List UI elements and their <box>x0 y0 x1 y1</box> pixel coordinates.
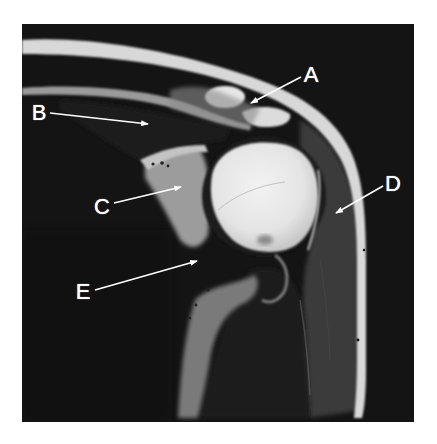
arrow-c <box>114 187 181 203</box>
label-c: C <box>94 196 110 218</box>
arrow-b <box>50 113 148 124</box>
label-a: A <box>304 64 319 86</box>
mri-shoulder-figure: ABCDE <box>22 24 414 422</box>
label-e: E <box>76 281 91 303</box>
arrow-a <box>251 77 301 103</box>
arrow-e <box>95 261 197 290</box>
label-d: D <box>385 173 401 195</box>
label-b: B <box>32 102 47 124</box>
annotation-arrows <box>22 24 414 422</box>
arrow-d <box>336 186 383 213</box>
